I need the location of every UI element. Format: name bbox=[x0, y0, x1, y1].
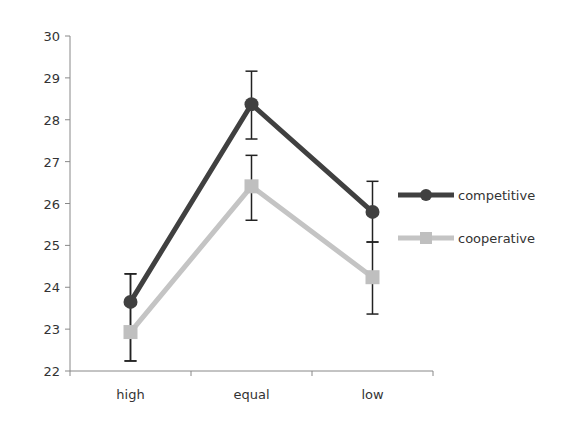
y-tick-label: 23 bbox=[43, 322, 60, 337]
x-tick-label: low bbox=[361, 387, 384, 402]
data-point bbox=[366, 205, 380, 219]
y-tick-label: 25 bbox=[43, 238, 60, 253]
square-marker-icon bbox=[420, 232, 432, 244]
y-tick-label: 22 bbox=[43, 364, 60, 379]
x-tick-label: equal bbox=[233, 387, 269, 402]
data-point bbox=[124, 325, 138, 339]
error-bars bbox=[125, 71, 379, 361]
y-tick-label: 27 bbox=[43, 155, 60, 170]
data-point bbox=[366, 270, 380, 284]
data-point bbox=[124, 295, 138, 309]
legend-item-cooperative: cooperative bbox=[398, 231, 535, 246]
legend-label-cooperative: cooperative bbox=[458, 231, 535, 246]
circle-marker-icon bbox=[420, 189, 432, 201]
data-point bbox=[245, 97, 259, 111]
legend: competitive cooperative bbox=[398, 188, 535, 246]
y-tick-label: 28 bbox=[43, 113, 60, 128]
y-tick-label: 24 bbox=[43, 280, 60, 295]
line-chart: 222324252627282930highequallow competiti… bbox=[0, 0, 577, 431]
x-tick-label: high bbox=[116, 387, 144, 402]
y-tick-label: 30 bbox=[43, 29, 60, 44]
legend-item-competitive: competitive bbox=[398, 188, 535, 203]
data-point bbox=[245, 179, 259, 193]
y-tick-label: 29 bbox=[43, 71, 60, 86]
legend-label-competitive: competitive bbox=[458, 188, 535, 203]
y-tick-label: 26 bbox=[43, 197, 60, 212]
